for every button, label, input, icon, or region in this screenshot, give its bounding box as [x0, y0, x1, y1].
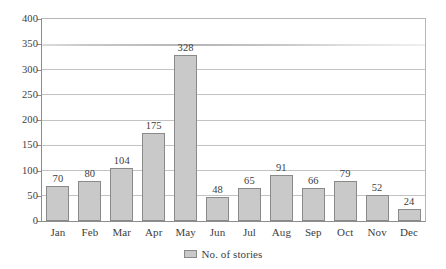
y-tick-label-50: 50: [0, 191, 38, 201]
x-tick-label-sep: Sep: [297, 226, 329, 238]
y-tick-label-250: 250: [0, 90, 38, 100]
bar-value-label-mar: 104: [96, 155, 147, 166]
bar-value-label-nov: 52: [352, 182, 403, 193]
bar-apr[interactable]: [142, 133, 165, 221]
x-tick-label-feb: Feb: [74, 226, 106, 238]
bar-jun[interactable]: [206, 197, 229, 221]
plot-area: 708010417532848659166795224: [41, 18, 426, 222]
bar-value-label-may: 328: [160, 42, 211, 53]
bar-value-label-feb: 80: [64, 168, 115, 179]
bar-value-label-jul: 65: [224, 175, 275, 186]
bar-value-label-dec: 24: [384, 196, 435, 207]
y-tick-label-300: 300: [0, 65, 38, 75]
x-tick-label-jan: Jan: [42, 226, 74, 238]
bar-sep[interactable]: [302, 188, 325, 221]
bar-slot: 24: [398, 19, 421, 221]
bar-slot: 80: [78, 19, 101, 221]
y-tick-label-0: 0: [0, 216, 38, 226]
x-tick-label-nov: Nov: [361, 226, 393, 238]
legend-swatch-icon: [184, 250, 197, 258]
bar-slot: 48: [206, 19, 229, 221]
y-tick-label-200: 200: [0, 115, 38, 125]
y-tick-label-350: 350: [0, 39, 38, 49]
bar-slot: 52: [366, 19, 389, 221]
bar-slot: 66: [302, 19, 325, 221]
bar-may[interactable]: [174, 55, 197, 221]
y-tick-label-150: 150: [0, 140, 38, 150]
legend-item-no-of-stories[interactable]: No. of stories: [184, 248, 263, 260]
legend-label: No. of stories: [202, 248, 263, 260]
bar-slot: 70: [46, 19, 69, 221]
x-tick-label-aug: Aug: [265, 226, 297, 238]
bar-chart-figure: 050100150200250300350400 708010417532848…: [0, 0, 446, 269]
x-tick-label-apr: Apr: [138, 226, 170, 238]
bar-slot: 91: [270, 19, 293, 221]
bar-feb[interactable]: [78, 181, 101, 221]
chart-legend: No. of stories: [0, 248, 446, 260]
x-tick-label-mar: Mar: [106, 226, 138, 238]
x-tick-label-may: May: [170, 226, 202, 238]
bar-mar[interactable]: [110, 168, 133, 221]
bar-value-label-apr: 175: [128, 120, 179, 131]
x-tick-label-oct: Oct: [329, 226, 361, 238]
y-tick-label-400: 400: [0, 14, 38, 24]
x-tick-label-dec: Dec: [393, 226, 425, 238]
bar-dec[interactable]: [398, 209, 421, 221]
bar-jul[interactable]: [238, 188, 261, 221]
bar-slot: 65: [238, 19, 261, 221]
x-tick-label-jul: Jul: [234, 226, 266, 238]
x-tick-label-jun: Jun: [202, 226, 234, 238]
bar-value-label-aug: 91: [256, 162, 307, 173]
bar-jan[interactable]: [46, 186, 69, 221]
bar-value-label-oct: 79: [320, 168, 371, 179]
